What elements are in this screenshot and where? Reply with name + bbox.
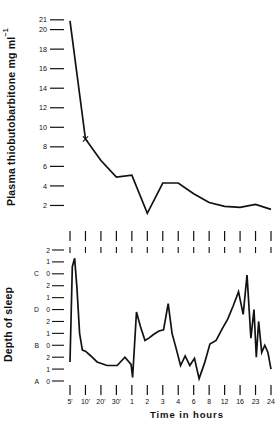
svg-text:0: 0	[46, 378, 50, 385]
svg-text:24: 24	[267, 398, 275, 405]
svg-text:2: 2	[46, 318, 50, 325]
plasma-line	[70, 21, 271, 213]
svg-text:14: 14	[39, 84, 47, 93]
plasma-x-ticks	[70, 231, 271, 241]
svg-text:1: 1	[46, 294, 50, 301]
svg-text:12: 12	[39, 103, 47, 112]
svg-text:D: D	[34, 306, 39, 313]
chart-canvas: 212018161412108642 210C210D210B210A 5'10…	[0, 0, 277, 428]
svg-text:3: 3	[161, 398, 165, 405]
plasma-series	[70, 21, 271, 213]
sleep-series	[70, 258, 271, 378]
svg-text:6: 6	[43, 162, 47, 171]
svg-text:10: 10	[39, 123, 47, 132]
plasma-axis-title-superscript: −1	[2, 28, 9, 36]
sleep-top-ticks	[70, 247, 271, 253]
svg-text:2: 2	[43, 201, 47, 210]
svg-text:10': 10'	[81, 398, 90, 405]
svg-text:1: 1	[46, 258, 50, 265]
x-axis-title: Time in hours	[150, 409, 224, 420]
svg-text:6: 6	[192, 398, 196, 405]
svg-text:5': 5'	[67, 398, 72, 405]
svg-text:12: 12	[221, 398, 229, 405]
svg-text:2: 2	[46, 354, 50, 361]
svg-text:2: 2	[46, 282, 50, 289]
svg-text:16: 16	[39, 64, 47, 73]
svg-text:B: B	[34, 342, 39, 349]
plasma-y-ticks: 212018161412108642	[39, 15, 64, 210]
svg-text:20: 20	[39, 25, 47, 34]
sleep-y-ticks: 210C210D210B210A	[34, 247, 64, 385]
plasma-axis-title: Plasma thiobutobarbitone mg ml−1	[2, 8, 17, 226]
svg-text:8: 8	[43, 142, 47, 151]
svg-text:0: 0	[46, 306, 50, 313]
svg-text:0: 0	[46, 270, 50, 277]
figure-root: Plasma thiobutobarbitone mg ml−1 Depth o…	[0, 0, 277, 428]
sleep-axis-title: Depth of sleep	[2, 258, 14, 390]
sleep-x-axis: 5'10'20'30'12346812162324	[67, 385, 275, 405]
svg-text:18: 18	[39, 45, 47, 54]
svg-text:1: 1	[130, 398, 134, 405]
svg-text:23: 23	[252, 398, 260, 405]
svg-text:2: 2	[46, 247, 50, 254]
svg-text:C: C	[34, 270, 39, 277]
svg-text:16: 16	[236, 398, 244, 405]
svg-text:21: 21	[39, 15, 47, 24]
svg-text:30': 30'	[112, 398, 121, 405]
svg-text:1: 1	[46, 330, 50, 337]
svg-text:1: 1	[46, 366, 50, 373]
sleep-axis-title-text: Depth of sleep	[2, 286, 14, 361]
svg-text:2: 2	[145, 398, 149, 405]
svg-text:0: 0	[46, 342, 50, 349]
svg-text:A: A	[34, 378, 39, 385]
svg-text:20': 20'	[96, 398, 105, 405]
sleep-line	[70, 258, 271, 378]
svg-text:4: 4	[43, 182, 47, 191]
svg-text:4: 4	[176, 398, 180, 405]
plasma-axis-title-text: Plasma thiobutobarbitone mg ml	[5, 37, 17, 206]
svg-text:8: 8	[207, 398, 211, 405]
